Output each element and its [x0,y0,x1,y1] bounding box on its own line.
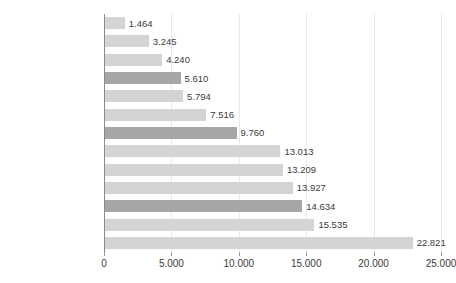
value-label: 7.516 [210,108,234,121]
y-axis-line [104,14,105,252]
bar-rows: Indonésia1.464Colômbia3.245Argentina4.24… [104,14,441,252]
x-axis-tick [306,252,307,256]
gridline [441,14,442,252]
bar-row: Indonésia1.464 [104,14,441,32]
bar-row: Noruega13.927 [104,179,441,197]
x-axis-tick-label: 15.000 [291,258,322,270]
value-label: 14.634 [306,200,335,213]
bar [105,164,283,176]
x-axis-tick-label: 0 [101,258,107,270]
bar-row: Lituânia5.794 [104,87,441,105]
bar-row: Reino Unido13.013 [104,142,441,160]
plot-area: Indonésia1.464Colômbia3.245Argentina4.24… [104,14,441,252]
value-label: 13.927 [297,181,326,194]
x-axis-tick [239,252,240,256]
value-label: 22.821 [417,236,446,249]
value-label: 3.245 [153,35,177,48]
value-label: 4.240 [166,53,190,66]
bar-row: Argentina4.240 [104,51,441,69]
bar [105,127,237,139]
x-axis-tick [104,252,105,256]
x-axis-tick-label: 20.000 [358,258,389,270]
value-label: 5.610 [185,72,209,85]
x-axis: 05.00010.00015.00020.00025.000 [104,252,441,258]
bar-row: Portugal7.516 [104,106,441,124]
bar-row: Colômbia3.245 [104,32,441,50]
bar [105,109,206,121]
bar [105,17,125,29]
bar [105,35,149,47]
bar [105,237,413,249]
bar-row: Suíça14.634 [104,197,441,215]
bar-row: Estados Unidos15.535 [104,215,441,233]
value-label: 9.760 [241,126,265,139]
bar-row: Média Ocde9.760 [104,124,441,142]
x-axis-tick-label: 10.000 [224,258,255,270]
bar-row: Áustria13.209 [104,160,441,178]
x-axis-tick-label: 5.000 [159,258,184,270]
x-axis-tick-label: 25.000 [426,258,456,270]
bar [105,54,162,66]
x-axis-tick [441,252,442,256]
x-axis-tick [171,252,172,256]
x-axis-tick [374,252,375,256]
bar [105,200,302,212]
value-label: 13.209 [287,163,316,176]
value-label: 1.464 [129,17,153,30]
bar-row: Luxemburgo22.821 [104,234,441,252]
value-label: 15.535 [318,218,347,231]
bar [105,72,181,84]
value-label: 5.794 [187,90,211,103]
bar [105,182,293,194]
bar [105,145,280,157]
value-label: 13.013 [284,145,313,158]
bar-row: Brasil5.610 [104,69,441,87]
bar [105,90,183,102]
bar [105,219,314,231]
